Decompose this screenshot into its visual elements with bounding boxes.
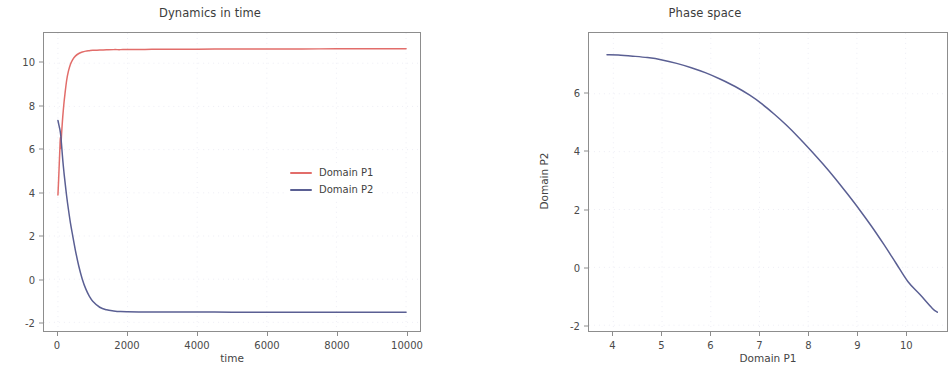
y-tick-mark: [584, 93, 588, 94]
legend-swatch-domain-p1: [290, 172, 312, 174]
data-line-trajectory: [607, 55, 937, 313]
dynamics-x-axis-label: time: [220, 352, 244, 364]
x-tick-mark: [661, 332, 662, 336]
x-tick-label: 0: [54, 340, 60, 351]
x-tick-mark: [197, 332, 198, 336]
x-tick-label: 4000: [184, 340, 209, 351]
y-tick-mark: [584, 326, 588, 327]
y-tick-label: -2: [3, 318, 35, 329]
y-tick-mark: [39, 323, 43, 324]
y-tick-label: 6: [548, 88, 580, 99]
x-tick-mark: [710, 332, 711, 336]
x-tick-label: 7: [756, 340, 762, 351]
y-tick-mark: [39, 192, 43, 193]
y-tick-label: 2: [548, 204, 580, 215]
y-tick-label: 4: [3, 187, 35, 198]
y-tick-mark: [39, 149, 43, 150]
y-tick-mark: [39, 105, 43, 106]
y-tick-label: 2: [3, 231, 35, 242]
x-tick-mark: [337, 332, 338, 336]
legend-label-domain-p1: Domain P1: [319, 167, 373, 179]
x-tick-label: 8000: [324, 340, 349, 351]
phase-y-axis-label: Domain P2: [538, 141, 550, 221]
x-tick-label: 9: [854, 340, 860, 351]
x-tick-mark: [906, 332, 907, 336]
dynamics-chart-title: Dynamics in time: [0, 6, 420, 20]
x-tick-mark: [759, 332, 760, 336]
phase-x-axis-label: Domain P1: [739, 352, 796, 364]
x-tick-mark: [267, 332, 268, 336]
x-tick-label: 10000: [391, 340, 423, 351]
x-tick-label: 5: [658, 340, 664, 351]
x-tick-mark: [127, 332, 128, 336]
legend-item-domain-p1: Domain P1: [290, 167, 373, 179]
x-tick-mark: [57, 332, 58, 336]
y-tick-label: 8: [3, 100, 35, 111]
x-tick-label: 10: [900, 340, 913, 351]
x-tick-label: 6: [707, 340, 713, 351]
y-tick-label: 6: [3, 144, 35, 155]
x-tick-mark: [407, 332, 408, 336]
y-tick-label: 0: [3, 274, 35, 285]
data-line-domain-p2: [58, 120, 406, 312]
panel-dynamics: Dynamics in time 1086420-2 0200040006000…: [0, 0, 465, 373]
y-tick-mark: [584, 209, 588, 210]
y-tick-mark: [39, 236, 43, 237]
y-tick-mark: [584, 151, 588, 152]
x-tick-label: 6000: [254, 340, 279, 351]
x-tick-mark: [857, 332, 858, 336]
y-tick-label: -2: [548, 321, 580, 332]
legend-label-domain-p2: Domain P2: [319, 184, 373, 196]
y-tick-mark: [584, 267, 588, 268]
y-tick-label: 10: [3, 57, 35, 68]
x-tick-label: 2000: [114, 340, 139, 351]
x-tick-label: 4: [609, 340, 615, 351]
y-tick-mark: [39, 62, 43, 63]
phase-plot-area: [588, 32, 948, 332]
y-tick-label: 0: [548, 262, 580, 273]
x-tick-mark: [808, 332, 809, 336]
legend-item-domain-p2: Domain P2: [290, 184, 373, 196]
legend-swatch-domain-p2: [290, 189, 312, 191]
phase-chart-title: Phase space: [480, 6, 930, 20]
y-tick-label: 4: [548, 146, 580, 157]
x-tick-mark: [612, 332, 613, 336]
dynamics-legend: Domain P1 Domain P2: [286, 163, 379, 200]
x-tick-label: 8: [805, 340, 811, 351]
y-tick-mark: [39, 279, 43, 280]
phase-plot-svg: [589, 33, 947, 331]
phase-gridlines: [589, 33, 947, 331]
phase-data-lines: [607, 55, 937, 313]
